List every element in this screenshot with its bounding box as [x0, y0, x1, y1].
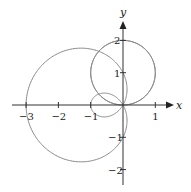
plot-curves: [26, 40, 155, 161]
polar-plot: x y −3−2−11 21−1−2: [0, 0, 191, 192]
x-tick-label: −1: [84, 111, 99, 122]
x-axis-label: x: [176, 99, 183, 112]
y-tick-label: −1: [108, 132, 123, 143]
axes: x y: [12, 6, 183, 185]
y-axis-label: y: [119, 6, 127, 19]
y-tick-label: 1: [114, 68, 120, 79]
y-tick-label: 2: [114, 35, 120, 46]
x-axis-arrow-icon: [166, 102, 174, 109]
x-tick-label: 1: [152, 111, 158, 122]
x-tick-label: −2: [51, 111, 66, 122]
x-tick-label: −3: [19, 111, 34, 122]
y-tick-label: −2: [108, 165, 123, 176]
y-axis-arrow-icon: [120, 21, 127, 29]
